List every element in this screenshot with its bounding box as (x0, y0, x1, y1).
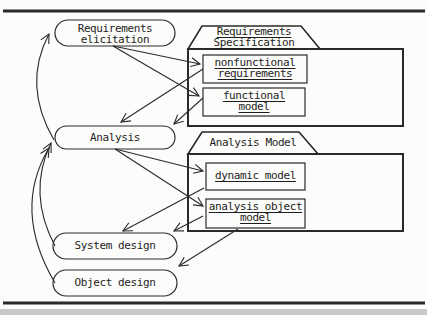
activity-label-object-design: Object design (53, 277, 177, 288)
bottom-gray-strip (0, 309, 427, 315)
label-line: dynamic model (206, 170, 305, 181)
document-label-functional-model: functional model (203, 90, 305, 112)
document-label-nonfunctional-requirements: nonfunctional requirements (203, 57, 307, 79)
document-label-dynamic-model: dynamic model (206, 170, 305, 181)
arrow-elicitation-to-nonfunctional-requirements (113, 46, 200, 64)
label-line: Analysis Model (188, 137, 318, 148)
label-line: requirements (203, 68, 307, 79)
folder-title-analysis-model: Analysis Model (188, 137, 318, 148)
label-line: System design (53, 240, 177, 251)
activity-label-requirements-elicitation: Requirements elicitation (55, 23, 175, 45)
activity-label-system-design: System design (53, 240, 177, 251)
label-line: Analysis (55, 132, 175, 143)
arrow-elicitation-to-functional-model (113, 46, 199, 96)
label-line: Specification (188, 37, 320, 48)
label-line: model (206, 212, 305, 223)
label-line: elicitation (55, 34, 175, 45)
document-label-analysis-object-model: analysis object model (206, 201, 305, 223)
diagram-canvas: Requirements elicitation Analysis System… (0, 0, 427, 315)
folder-title-requirements-specification: Requirements Specification (188, 26, 320, 48)
label-line: model (203, 101, 305, 112)
arrow-analysis-to-elicitation-feedback (37, 34, 54, 140)
activity-label-analysis: Analysis (55, 132, 175, 143)
arrow-system-design-to-analysis-feedback (40, 143, 55, 246)
arrow-analysis-object-model-to-object-design (179, 229, 238, 266)
label-line: Object design (53, 277, 177, 288)
